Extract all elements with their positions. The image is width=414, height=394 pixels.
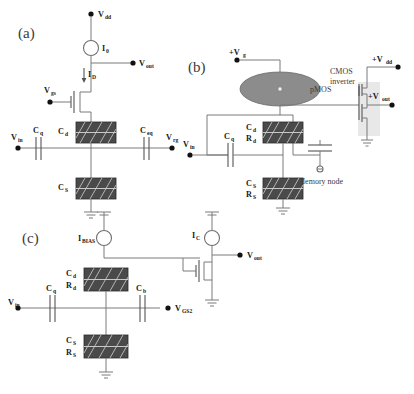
label-vin-sub-a: in: [18, 137, 24, 143]
node-vgs2-c: [165, 305, 170, 310]
label-vdd-a: V: [98, 10, 104, 19]
label-vrg-sub-a: rg: [173, 137, 178, 143]
label-rd-sub-b: d: [253, 138, 257, 144]
label-vout-sub-a: out: [146, 63, 154, 69]
block-cd-a: [76, 122, 116, 143]
label-pmos-b: pMOS: [310, 85, 331, 94]
label-cq-c: C: [46, 284, 52, 293]
label-cq-a: C: [33, 126, 39, 135]
label-vin-b: V: [183, 140, 189, 149]
label-rs-b: R: [246, 190, 252, 199]
label-id-sub-a: D: [92, 74, 96, 80]
label-cd-a: C: [58, 127, 64, 136]
ground-symbol-bottom-c: [99, 372, 113, 378]
label-vout-c: V: [247, 251, 253, 260]
panel-a: (a) V dd I 0 V out I D V gs: [11, 10, 178, 218]
label-cs-c: C: [66, 336, 72, 345]
label-vout-sub-c: out: [254, 255, 262, 261]
node-vout-a: [130, 60, 135, 65]
label-cs-a: C: [58, 183, 64, 192]
label-vout-sub-b: out: [382, 96, 390, 102]
label-cmos-inverter-line1-b: CMOS: [330, 67, 353, 76]
label-ceq-sub-a: eq: [147, 130, 153, 136]
node-vdd-a: [88, 11, 93, 16]
label-vin-sub-b: in: [190, 144, 196, 150]
label-ibias-c: I: [78, 234, 81, 243]
label-rd-c: R: [66, 281, 72, 290]
label-vgs2-sub-c: GS2: [182, 308, 192, 314]
label-vout-a: V: [139, 59, 145, 68]
label-ceq-a: C: [140, 126, 146, 135]
label-vdd-sub-b: dd: [386, 59, 393, 65]
label-rs-c: R: [66, 348, 72, 357]
label-cd-sub-a: d: [65, 131, 69, 137]
label-ic-sub-c: C: [196, 235, 200, 241]
label-vin-c: V: [8, 298, 14, 307]
label-ic-c: I: [192, 231, 195, 240]
panel-c-tag: (c): [22, 230, 39, 247]
pmos-center-dot-b: [278, 87, 281, 90]
current-source-ic-c: [205, 231, 220, 246]
label-i0-a: I: [102, 44, 105, 53]
label-rs-sub-c: S: [73, 352, 76, 358]
node-vout-b: [389, 102, 394, 107]
label-cd-sub-b: d: [253, 127, 257, 133]
label-vgs-a: V: [44, 86, 50, 95]
block-cs-a: [76, 178, 116, 199]
label-cb-sub-c: b: [143, 288, 146, 294]
label-id-a: I: [88, 70, 91, 79]
label-ibias-sub-c: BIAS: [82, 238, 95, 244]
label-cb-c: C: [136, 284, 142, 293]
label-vout-b: +V: [368, 92, 379, 101]
label-cd-b: C: [246, 123, 252, 132]
block-cs-rs-b: [263, 178, 303, 199]
label-vrg-a: V: [166, 133, 172, 142]
circuit-figure: (a) V dd I 0 V out I D V gs: [0, 0, 414, 394]
ground-symbol-a: [84, 212, 98, 218]
block-cd-rd-b: [263, 122, 303, 143]
label-memory-node-b: Memory node: [298, 177, 344, 186]
panel-b-tag: (b): [188, 59, 206, 76]
node-vout-c: [237, 252, 242, 257]
node-vgs-a: [47, 99, 52, 104]
panel-b: (b) +V g pMOS Memory node: [183, 48, 401, 214]
label-cq-b: C: [224, 132, 230, 141]
label-cq-sub-a: q: [40, 130, 44, 136]
ground-symbol-inverter-b: [361, 140, 373, 146]
label-cs-sub-c: S: [73, 340, 76, 346]
panel-c: (c) I BIAS C d R d V: [8, 212, 262, 378]
block-cs-rs-c: [84, 335, 128, 358]
pmos-device-b: [240, 72, 320, 106]
label-vdd-b: +V: [372, 55, 383, 64]
label-vgs-sub-a: gs: [51, 90, 57, 96]
label-rd-sub-c: d: [73, 285, 77, 291]
label-i0-sub-a: 0: [106, 48, 109, 54]
current-source-i0-a: [84, 41, 99, 56]
label-cs-b: C: [246, 179, 252, 188]
node-vrg-a: [169, 145, 174, 150]
label-vin-a: V: [11, 133, 17, 142]
label-vdd-sub-a: dd: [105, 14, 112, 20]
current-source-ibias-c: [97, 231, 112, 246]
ground-symbol-mos-c: [205, 300, 219, 306]
label-cq-sub-c: q: [53, 288, 57, 294]
ground-symbol-memnode-b: [317, 166, 323, 172]
panel-a-tag: (a): [18, 25, 35, 42]
node-vdd-b: [395, 64, 400, 69]
label-vg-b: +V: [229, 48, 240, 57]
ground-symbol-b: [276, 208, 290, 214]
node-vin-a: [15, 145, 20, 150]
label-vg-sub-b: g: [243, 52, 246, 58]
arrow-id-head-a: [82, 78, 87, 83]
node-vg-b: [234, 57, 239, 62]
block-cd-rd-c: [84, 268, 128, 291]
label-cd-sub-c: d: [73, 273, 77, 279]
label-vgs2-c: V: [175, 304, 181, 313]
inverter-highlight-b: [358, 82, 380, 136]
label-cmos-inverter-line2-b: inverter: [330, 77, 355, 86]
label-rs-sub-b: S: [253, 194, 256, 200]
label-cd-c: C: [66, 269, 72, 278]
node-vin-b: [187, 152, 192, 157]
label-rd-b: R: [246, 134, 252, 143]
label-cs-sub-b: S: [253, 183, 256, 189]
